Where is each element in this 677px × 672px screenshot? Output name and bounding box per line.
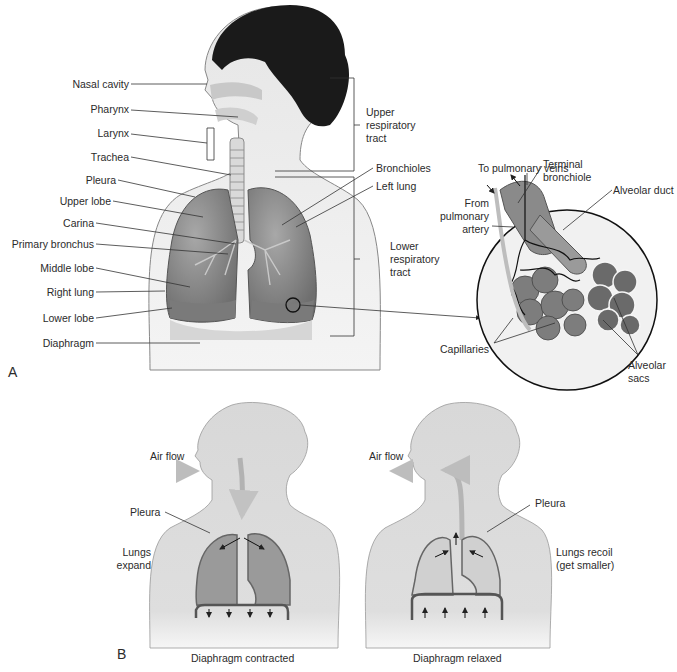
label-trachea: Trachea	[91, 151, 129, 164]
label-bronchioles: Bronchioles	[376, 162, 431, 175]
label-from-pulmonary-artery: From pulmonary artery	[440, 197, 489, 236]
panel-a-torso	[149, 5, 380, 370]
panel-b-letter: B	[117, 648, 126, 661]
label-carina: Carina	[63, 217, 94, 230]
label-lungs-recoil: Lungs recoil (get smaller)	[556, 546, 614, 572]
panel-b-exhale	[365, 402, 551, 648]
label-primary-bronchus: Primary bronchus	[12, 238, 94, 251]
label-right-lung: Right lung	[47, 286, 94, 299]
label-lower-respiratory-tract: Lower respiratory tract	[390, 240, 440, 279]
label-alveolar-sacs: Alveolar sacs	[628, 359, 666, 385]
alveoli-inset	[477, 175, 657, 390]
label-terminal-bronchiole: Terminal bronchiole	[543, 158, 591, 184]
label-nasal-cavity: Nasal cavity	[72, 78, 129, 91]
label-lungs-expand: Lungs expand	[117, 546, 151, 572]
label-pleura: Pleura	[86, 174, 116, 187]
label-upper-lobe: Upper lobe	[60, 195, 111, 208]
label-pleura-exhale: Pleura	[535, 497, 565, 510]
label-left-lung: Left lung	[376, 180, 416, 193]
panel-b-inhale	[150, 402, 340, 648]
label-larynx: Larynx	[97, 127, 129, 140]
caption-diaphragm-relaxed: Diaphragm relaxed	[413, 652, 502, 665]
label-air-flow-inhale: Air flow	[150, 450, 184, 463]
label-pleura-inhale: Pleura	[130, 506, 160, 519]
label-middle-lobe: Middle lobe	[40, 262, 94, 275]
label-upper-respiratory-tract: Upper respiratory tract	[366, 106, 416, 145]
panel-a-letter: A	[8, 366, 17, 379]
label-alveolar-duct: Alveolar duct	[613, 184, 674, 197]
label-capillaries: Capillaries	[440, 343, 489, 356]
label-pharynx: Pharynx	[90, 103, 129, 116]
label-air-flow-exhale: Air flow	[369, 450, 403, 463]
caption-diaphragm-contracted: Diaphragm contracted	[191, 652, 294, 665]
label-diaphragm: Diaphragm	[43, 337, 94, 350]
label-lower-lobe: Lower lobe	[43, 312, 94, 325]
